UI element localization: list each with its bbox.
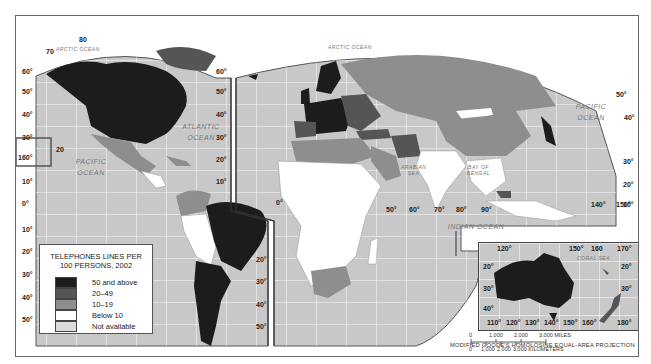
lat-label: 40° (216, 111, 227, 118)
legend-label: Below 10 (92, 311, 123, 320)
lat-label: 50° (616, 91, 627, 98)
swatch-10-19 (55, 299, 77, 310)
lon-label: 20 (56, 146, 64, 153)
lon-label: 50° (386, 206, 397, 213)
lat-label: 10° (216, 178, 227, 185)
inset-left-label: 40° (483, 305, 494, 312)
lat-label: 50° (216, 88, 227, 95)
lat-label: 30° (623, 158, 634, 165)
ocean-label-indian: INDIAN OCEAN (431, 221, 521, 232)
lat-label: 70 (46, 48, 54, 55)
lat-label: 30° (22, 134, 33, 141)
ocean-label-coral: CORAL SEA (577, 255, 610, 261)
ocean-label-arctic-east: ARCTIC OCEAN (328, 44, 372, 50)
scale-miles-1: 1,000 (489, 332, 503, 338)
inset-left-label: 30° (483, 285, 494, 292)
inset-right-label: 20° (621, 263, 632, 270)
ocean-label-pacific-west: PACIFIC OCEAN (71, 156, 111, 178)
lat-label: 30° (22, 271, 33, 278)
lat-label: 10° (22, 226, 33, 233)
legend-label: 50 and above (92, 278, 137, 287)
legend-item-below-10: Below 10 (55, 310, 123, 321)
lat-label: 30° (256, 278, 267, 285)
inset-bottom-label: 140° (544, 319, 558, 326)
legend-title-line1: TELEPHONES LINES PER (40, 252, 152, 261)
legend-title-line2: 100 PERSONS, 2002 (40, 261, 152, 270)
swatch-20-49 (55, 288, 77, 299)
lat-label: 40° (22, 294, 33, 301)
inset-bottom-label: 180° (617, 319, 631, 326)
map-legend: TELEPHONES LINES PER 100 PERSONS, 2002 5… (39, 244, 153, 334)
lat-label: 20° (22, 248, 33, 255)
lat-label: 60° (216, 68, 227, 75)
lat-label: 20° (623, 181, 634, 188)
inset-bottom-label: 110° (487, 319, 501, 326)
inset-top-label: 150° (569, 245, 583, 252)
world-map-frame: 80 70 60° 50° 40° 30° 10° 0° 10° 20° 30°… (15, 15, 639, 357)
inset-top-label: 160 (591, 245, 603, 252)
inset-left-label: 20° (483, 263, 494, 270)
lat-label: 80 (79, 36, 87, 43)
inset-bottom-label: 120° (506, 319, 520, 326)
scale-miles-0: 0 (469, 332, 472, 338)
lon-label: 80° (456, 206, 467, 213)
scale-miles-3: 3,000 MILES (539, 332, 571, 338)
lon-label: 140° (591, 201, 605, 208)
lat-label: 60° (22, 68, 33, 75)
lon-label: 70° (434, 206, 445, 213)
inset-bottom-label: 150° (563, 319, 577, 326)
lat-label: 50° (22, 88, 33, 95)
ocean-label-pacific-east: PACIFIC OCEAN (571, 101, 611, 123)
swatch-below-10 (55, 310, 77, 321)
legend-label: Not available (92, 322, 135, 331)
lat-label: 20° (256, 256, 267, 263)
inset-bottom-label: 160° (582, 319, 596, 326)
lat-label: 50° (256, 323, 267, 330)
inset-right-label: 30° (621, 285, 632, 292)
inset-bottom-label: 130° (525, 319, 539, 326)
legend-item-10-19: 10–19 (55, 299, 113, 310)
australia-inset-graphic (479, 243, 639, 330)
legend-item-not-available: Not available (55, 321, 135, 332)
lat-label: 0° (22, 200, 29, 207)
lon-label: 150° (616, 201, 630, 208)
lat-label: 40° (256, 301, 267, 308)
australia-inset: 120° 150° 160 170° CORAL SEA 20° 30° 40°… (478, 242, 639, 331)
inset-top-label: 120° (497, 245, 511, 252)
lat-label: 0° (276, 199, 283, 206)
legend-item-20-49: 20–49 (55, 288, 113, 299)
lat-label: 20° (216, 156, 227, 163)
lat-label: 10° (22, 178, 33, 185)
lat-label: 50° (22, 316, 33, 323)
projection-label: MODIFIED GOODE'S HOMOLOSINE EQUAL-AREA P… (450, 342, 635, 348)
swatch-not-available (55, 321, 77, 332)
iberia (294, 121, 316, 138)
lat-label: 40° (22, 111, 33, 118)
swatch-50-above (55, 277, 77, 288)
legend-label: 10–19 (92, 300, 113, 309)
lon-label: 160° (18, 154, 32, 161)
inset-top-label: 170° (617, 245, 631, 252)
legend-item-50-above: 50 and above (55, 277, 137, 288)
scale-miles-2: 2,000 (514, 332, 528, 338)
ocean-label-atlantic: ATLANTIC OCEAN (181, 121, 221, 143)
lon-label: 90° (481, 206, 492, 213)
lat-label: 40° (624, 114, 635, 121)
ocean-label-arctic-west: ARCTIC OCEAN (56, 46, 100, 52)
ocean-label-bengal: BAY OF BENGAL (466, 164, 491, 176)
ocean-label-arabian: ARABIAN SEA (401, 164, 426, 176)
lon-label: 60° (409, 206, 420, 213)
legend-label: 20–49 (92, 289, 113, 298)
